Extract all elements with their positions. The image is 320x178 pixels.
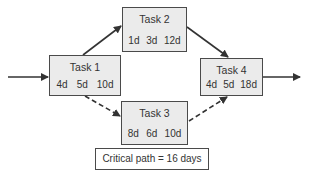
task-label: Task 3 xyxy=(122,107,187,119)
duration-pessimistic: 10d xyxy=(165,128,182,139)
edge-task1-task2 xyxy=(83,26,121,55)
duration-likely: 3d xyxy=(146,35,157,46)
task-label: Task 2 xyxy=(123,13,186,25)
duration-likely: 5d xyxy=(223,79,234,90)
duration-pessimistic: 10d xyxy=(97,79,114,90)
critical-path-note: Critical path = 16 days xyxy=(95,148,209,170)
task-node-1: Task 1 4d 5d 10d xyxy=(49,55,121,96)
duration-optimistic: 1d xyxy=(128,35,139,46)
task-durations: 8d 6d 10d xyxy=(122,128,187,139)
duration-likely: 6d xyxy=(146,128,157,139)
duration-likely: 5d xyxy=(77,79,88,90)
duration-pessimistic: 12d xyxy=(164,35,181,46)
edge-task1-task3 xyxy=(85,96,120,116)
duration-optimistic: 8d xyxy=(128,128,139,139)
task-durations: 1d 3d 12d xyxy=(123,35,186,46)
duration-optimistic: 4d xyxy=(57,79,68,90)
duration-pessimistic: 18d xyxy=(240,79,257,90)
task-durations: 4d 5d 18d xyxy=(201,79,262,90)
task-label: Task 1 xyxy=(50,61,120,73)
task-label: Task 4 xyxy=(201,64,262,76)
duration-optimistic: 4d xyxy=(206,79,217,90)
task-durations: 4d 5d 10d xyxy=(50,79,120,90)
edge-task2-task4 xyxy=(187,27,228,57)
edge-task3-task4 xyxy=(189,97,227,121)
task-node-2: Task 2 1d 3d 12d xyxy=(122,7,187,52)
task-node-3: Task 3 8d 6d 10d xyxy=(121,101,188,145)
task-node-4: Task 4 4d 5d 18d xyxy=(200,58,263,96)
